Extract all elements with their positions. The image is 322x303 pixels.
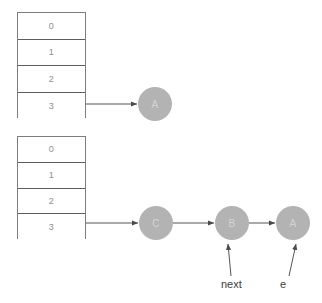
arrow-next-to-b: [228, 244, 231, 276]
bottom-bucket-array: 0123: [17, 136, 86, 239]
linked-list-diagram: 01230123 ACBA nexte: [0, 0, 322, 303]
bucket-cell-3[interactable]: 3: [18, 214, 85, 240]
node-b-bottom[interactable]: B: [215, 206, 249, 240]
bucket-cell-0[interactable]: 0: [18, 137, 85, 163]
bucket-index-label: 1: [49, 47, 54, 57]
node-a-top[interactable]: A: [138, 87, 172, 121]
node-label: C: [152, 218, 160, 229]
node-label: A: [152, 99, 159, 110]
top-bucket-array: 0123: [17, 12, 86, 118]
bucket-index-label: 3: [49, 222, 54, 232]
bucket-cell-2[interactable]: 2: [18, 66, 85, 93]
bucket-cell-3[interactable]: 3: [18, 93, 85, 120]
bucket-index-label: 2: [49, 74, 54, 84]
label-e: e: [280, 278, 286, 290]
bucket-index-label: 1: [49, 170, 54, 180]
node-label: B: [229, 218, 236, 229]
bucket-cell-1[interactable]: 1: [18, 40, 85, 67]
arrow-layer: [86, 104, 296, 276]
bucket-index-label: 2: [49, 196, 54, 206]
bucket-cell-0[interactable]: 0: [18, 13, 85, 40]
node-a-bottom[interactable]: A: [276, 206, 310, 240]
node-label: A: [290, 218, 297, 229]
bucket-cell-2[interactable]: 2: [18, 189, 85, 215]
label-next: next: [221, 278, 242, 290]
bucket-cell-1[interactable]: 1: [18, 163, 85, 189]
node-c-bottom[interactable]: C: [139, 206, 173, 240]
bucket-index-label: 0: [49, 21, 54, 31]
bucket-index-label: 3: [49, 101, 54, 111]
bucket-index-label: 0: [49, 144, 54, 154]
arrow-e-to-a: [289, 244, 296, 276]
